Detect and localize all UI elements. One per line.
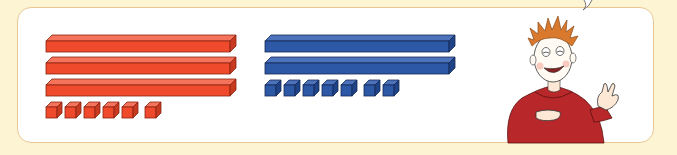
blue-unit-cube	[284, 80, 300, 96]
blue-unit-cube	[322, 80, 338, 96]
blue-unit-cube	[265, 80, 281, 96]
blocks-illustration	[0, 0, 677, 155]
red-unit-cube	[46, 102, 62, 118]
red-ten-rod-1	[46, 35, 236, 52]
red-tens-rods	[46, 35, 236, 96]
blue-unit-cube	[364, 80, 380, 96]
speech-bubble-tail	[583, 0, 592, 10]
red-ones-cubes	[46, 102, 161, 118]
blue-tens-rods	[265, 35, 455, 74]
blue-ones-cubes	[265, 80, 399, 96]
red-ten-rod-2	[46, 57, 236, 74]
red-unit-cube	[145, 102, 161, 118]
hand-on-chest	[536, 110, 560, 121]
blue-ten-rod-2	[265, 57, 455, 74]
blue-unit-cube	[341, 80, 357, 96]
red-ten-rod-3	[46, 79, 236, 96]
red-unit-cube	[122, 102, 138, 118]
boy-character	[508, 16, 619, 143]
blue-ten-rod-1	[265, 35, 455, 52]
blue-unit-cube	[383, 80, 399, 96]
blue-unit-cube	[303, 80, 319, 96]
waving-hand	[598, 83, 619, 110]
red-unit-cube	[84, 102, 100, 118]
red-unit-cube	[65, 102, 81, 118]
red-unit-cube	[103, 102, 119, 118]
